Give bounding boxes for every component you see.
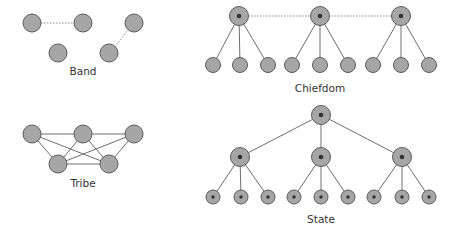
band-node — [125, 14, 143, 32]
band-diagram: Band — [23, 14, 143, 77]
state-label: State — [307, 213, 335, 225]
tribe-node — [23, 125, 41, 143]
tribe-node — [49, 155, 67, 173]
political-organization-diagram: Band Tribe — [0, 0, 457, 233]
chiefdom-member-node — [313, 58, 328, 73]
state-diagram: State — [206, 106, 436, 226]
chiefdom-member-node — [285, 58, 300, 73]
chiefdom-member-node — [341, 58, 356, 73]
band-node — [74, 14, 92, 32]
chiefdom-member-node — [422, 58, 437, 73]
chiefdom-member-node — [261, 58, 276, 73]
tribe-diagram: Tribe — [23, 125, 143, 189]
band-label: Band — [70, 65, 97, 77]
chiefdom-member-node — [233, 58, 248, 73]
chiefdom-member-node — [206, 58, 221, 73]
tribe-node — [125, 125, 143, 143]
tribe-node — [74, 125, 92, 143]
state-leaf-nodes — [206, 190, 436, 204]
band-node — [100, 44, 118, 62]
band-node — [23, 14, 41, 32]
chiefdom-diagram: Chiefdom — [206, 7, 437, 95]
chiefdom-label: Chiefdom — [295, 82, 345, 94]
tribe-node — [100, 155, 118, 173]
chiefdom-member-node — [366, 58, 381, 73]
band-node — [49, 44, 67, 62]
tribe-label: Tribe — [69, 177, 95, 189]
chiefdom-member-node — [394, 58, 409, 73]
